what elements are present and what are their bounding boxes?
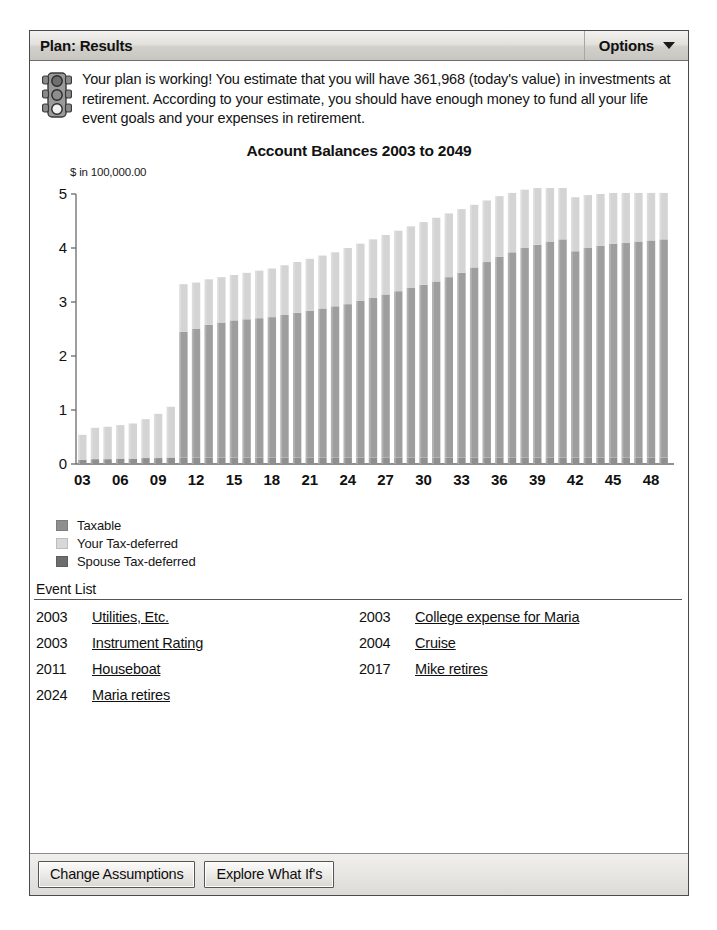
options-menu-button[interactable]: Options (584, 31, 688, 60)
svg-text:36: 36 (491, 471, 508, 488)
event-link[interactable]: Mike retires (403, 656, 488, 682)
change-assumptions-button[interactable]: Change Assumptions (38, 861, 195, 888)
svg-text:2: 2 (59, 347, 67, 364)
event-link[interactable]: Maria retires (80, 682, 170, 708)
event-year: 2011 (36, 656, 80, 682)
svg-text:18: 18 (264, 471, 281, 488)
event-list: Event List 2003 Utilities, Etc. 2003 Col… (30, 581, 688, 708)
svg-text:42: 42 (567, 471, 584, 488)
legend-item-spouse-tax-deferred: Spouse Tax-deferred (56, 553, 688, 571)
event-link[interactable]: Houseboat (80, 656, 160, 682)
legend-label-taxable: Taxable (77, 518, 121, 533)
explore-what-ifs-button[interactable]: Explore What If's (204, 861, 334, 888)
svg-text:09: 09 (150, 471, 167, 488)
svg-text:4: 4 (59, 239, 67, 256)
svg-text:03: 03 (74, 471, 91, 488)
svg-text:21: 21 (301, 471, 318, 488)
svg-text:45: 45 (605, 471, 622, 488)
svg-text:5: 5 (59, 188, 67, 202)
chart-plot: 01234503060912151821242730333639424548 (30, 188, 688, 508)
event-link[interactable]: College expense for Maria (403, 604, 579, 630)
legend-swatch-spouse-tax-deferred (56, 556, 68, 567)
legend-item-taxable: Taxable (56, 517, 688, 535)
svg-text:33: 33 (453, 471, 470, 488)
chart-legend: Taxable Your Tax-deferred Spouse Tax-def… (56, 517, 688, 571)
legend-item-your-tax-deferred: Your Tax-deferred (56, 535, 688, 553)
event-link-empty (403, 682, 682, 708)
event-year: 2017 (359, 656, 403, 682)
event-year: 2003 (36, 630, 80, 656)
options-label: Options (599, 37, 654, 54)
status-message-row: Your plan is working! You estimate that … (30, 61, 688, 133)
event-list-grid: 2003 Utilities, Etc. 2003 College expens… (34, 604, 682, 708)
svg-text:30: 30 (415, 471, 432, 488)
traffic-light-icon (42, 72, 72, 129)
page-title: Plan: Results (30, 37, 132, 54)
account-balances-chart: $ in 100,000.00 012345030609121518212427… (30, 166, 688, 511)
event-list-title: Event List (34, 581, 682, 599)
legend-label-your-tax-deferred: Your Tax-deferred (77, 536, 178, 551)
svg-text:39: 39 (529, 471, 546, 488)
svg-text:12: 12 (188, 471, 205, 488)
svg-text:15: 15 (226, 471, 243, 488)
svg-text:06: 06 (112, 471, 129, 488)
window-titlebar: Plan: Results Options (30, 31, 688, 61)
legend-swatch-your-tax-deferred (56, 538, 68, 549)
y-axis-label: $ in 100,000.00 (70, 166, 146, 178)
svg-text:27: 27 (377, 471, 394, 488)
svg-text:48: 48 (643, 471, 660, 488)
chevron-down-icon (663, 42, 675, 49)
legend-label-spouse-tax-deferred: Spouse Tax-deferred (77, 554, 196, 569)
event-link[interactable]: Instrument Rating (80, 630, 203, 656)
svg-text:3: 3 (59, 293, 67, 310)
event-link[interactable]: Cruise (403, 630, 456, 656)
event-year: 2003 (36, 604, 80, 630)
event-year: 2004 (359, 630, 403, 656)
svg-text:24: 24 (339, 471, 356, 488)
status-message-text: Your plan is working! You estimate that … (82, 70, 672, 129)
legend-swatch-taxable (56, 520, 68, 531)
svg-text:1: 1 (59, 401, 67, 418)
event-link[interactable]: Utilities, Etc. (80, 604, 169, 630)
event-year: 2024 (36, 682, 80, 708)
event-list-divider (34, 599, 682, 600)
event-year: 2003 (359, 604, 403, 630)
event-year-empty (359, 682, 403, 708)
plan-results-window: Plan: Results Options Your plan is worki… (29, 30, 689, 896)
window-footer: Change Assumptions Explore What If's (30, 853, 688, 895)
svg-text:0: 0 (59, 455, 67, 472)
chart-title: Account Balances 2003 to 2049 (30, 142, 688, 160)
